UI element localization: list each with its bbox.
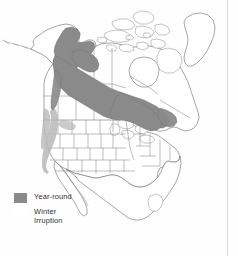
legend-item-winter-irruption: Winter Irruption	[14, 207, 104, 226]
map-legend: Year-round Winter Irruption	[14, 192, 104, 230]
greenland	[184, 13, 215, 66]
legend-swatch-winter-irruption	[14, 208, 27, 218]
legend-label-year-round: Year-round	[34, 192, 72, 201]
baffin-island	[157, 48, 182, 73]
legend-item-year-round: Year-round	[14, 192, 104, 203]
legend-label-winter-irruption: Winter Irruption	[34, 207, 62, 226]
yucatan-peninsula	[148, 194, 163, 211]
range-map-figure: Year-round Winter Irruption	[0, 0, 238, 256]
arctic-archipelago	[97, 11, 170, 52]
legend-swatch-year-round	[14, 193, 27, 203]
figure-border-rule	[227, 0, 228, 256]
